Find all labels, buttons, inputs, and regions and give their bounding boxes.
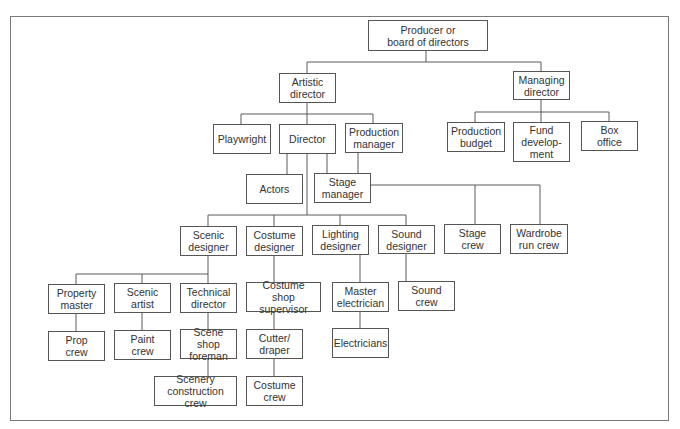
node-scene-shop-foreman: Scene shop foreman xyxy=(180,329,237,359)
node-artistic-director: Artistic director xyxy=(279,73,336,103)
node-actors: Actors xyxy=(246,174,303,204)
node-managing-director: Managing director xyxy=(513,71,570,100)
node-sound-designer: Sound designer xyxy=(378,225,435,254)
node-scenic-designer: Scenic designer xyxy=(180,226,237,256)
node-electricians: Electricians xyxy=(332,328,389,358)
node-stage-crew: Stage crew xyxy=(444,224,501,254)
node-producer: Producer or board of directors xyxy=(368,20,488,51)
node-box-office: Box office xyxy=(581,121,638,151)
node-costume-designer: Costume designer xyxy=(246,226,303,256)
node-scenery-construction-crew: Scenery construction crew xyxy=(154,376,237,406)
node-costume-crew: Costume crew xyxy=(246,376,303,406)
node-director: Director xyxy=(279,124,336,154)
node-lighting-designer: Lighting designer xyxy=(312,225,369,255)
node-property-master: Property master xyxy=(48,284,105,314)
connector-lines xyxy=(0,0,680,429)
node-wardrobe-run-crew: Wardrobe run crew xyxy=(510,224,568,254)
node-production-manager: Production manager xyxy=(345,123,403,153)
node-stage-manager: Stage manager xyxy=(314,173,371,203)
node-sound-crew: Sound crew xyxy=(398,281,455,311)
node-paint-crew: Paint crew xyxy=(114,330,171,360)
node-prop-crew: Prop crew xyxy=(48,331,105,361)
node-costume-shop-supervisor: Costume shop supervisor xyxy=(246,282,321,312)
node-fund-development: Fund develop- ment xyxy=(513,122,570,162)
node-production-budget: Production budget xyxy=(447,122,505,152)
node-scenic-artist: Scenic artist xyxy=(114,283,171,313)
node-technical-director: Technical director xyxy=(180,283,237,313)
node-master-electrician: Master electrician xyxy=(332,282,389,312)
node-cutter-draper: Cutter/ draper xyxy=(246,329,303,359)
node-playwright: Playwright xyxy=(213,124,271,154)
